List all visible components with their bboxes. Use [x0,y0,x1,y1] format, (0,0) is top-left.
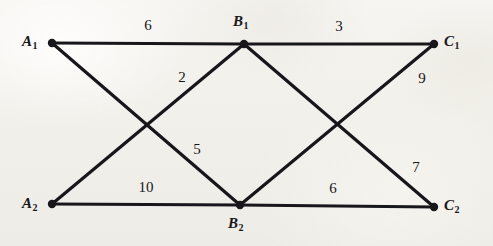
vertex-label-subscript: 1 [33,40,38,51]
edge-weight-b1-c1: 3 [335,19,343,34]
edge-weight-a2-b2: 10 [139,180,154,195]
vertex-label-a1: A1 [22,34,37,49]
edge-weight-b1-c2: 9 [418,71,426,86]
vertex-label-base: B [228,215,238,231]
vertex-label-base: A [22,33,32,49]
vertex-label-base: A [22,195,32,211]
vertex-label-subscript: 1 [244,20,249,31]
vertex-label-base: B [233,13,243,29]
graph-node-b1 [240,40,248,48]
graph-edge-a2-b2 [52,204,240,205]
graph-node-a1 [48,39,56,47]
vertex-label-c1: C1 [444,34,459,49]
graph-canvas [0,0,493,246]
edge-weight-a1-b1: 6 [144,18,152,33]
vertex-label-b2: B2 [228,216,243,231]
graph-diagram: A1B1C1A2B2C2 632957106 [0,0,493,246]
graph-edge-b2-c2 [240,205,434,207]
vertex-label-subscript: 2 [455,204,460,215]
edge-weight-a1-b2: 5 [193,142,201,157]
edge-weight-b2-c1: 7 [412,160,420,175]
node-layer [48,39,438,211]
graph-edge-a1-b1 [52,43,244,44]
edge-layer [52,43,434,207]
edge-weight-a2-b1: 2 [178,70,186,85]
graph-node-c2 [430,203,438,211]
vertex-label-c2: C2 [444,198,459,213]
graph-node-c1 [430,40,438,48]
vertex-label-subscript: 1 [455,40,460,51]
vertex-label-a2: A2 [22,196,37,211]
vertex-label-subscript: 2 [33,202,38,213]
graph-node-b2 [236,201,244,209]
vertex-label-base: C [444,33,454,49]
vertex-label-base: C [444,197,454,213]
edge-weight-b2-c2: 6 [329,181,337,196]
vertex-label-b1: B1 [233,14,248,29]
graph-node-a2 [48,200,56,208]
vertex-label-subscript: 2 [239,222,244,233]
